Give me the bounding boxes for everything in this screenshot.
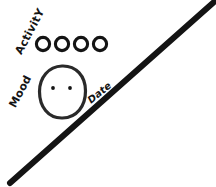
activity-circle-1[interactable] — [36, 37, 49, 50]
sketch-canvas: ActivitY Mood Date — [0, 0, 216, 187]
mood-face-group[interactable] — [40, 66, 86, 118]
activity-circles-group — [36, 37, 106, 50]
mood-face-outline — [40, 66, 86, 118]
activity-circle-3[interactable] — [74, 37, 87, 50]
mood-eye-right — [68, 86, 72, 90]
mood-eye-left — [51, 86, 55, 90]
activity-circle-2[interactable] — [55, 37, 68, 50]
activity-circle-4[interactable] — [93, 37, 106, 50]
